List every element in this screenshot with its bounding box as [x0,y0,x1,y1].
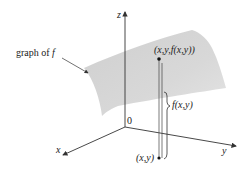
surface-graph-of-f [84,30,226,116]
graph-label-arrow [62,58,88,73]
y-axis-label: y [221,145,227,156]
surface-label-prefix: graph of [16,47,52,58]
surface-label: graph of f [16,47,56,58]
plane-point-label: (x,y) [136,152,155,164]
x-axis [63,127,125,155]
origin-label: 0 [127,115,132,126]
surface-label-func: f [52,47,56,58]
z-axis-label: z [116,9,121,20]
function-graph-diagram: z x y 0 graph of f (x,y,f(x,y)) (x,y) f(… [0,0,245,174]
x-axis-label: x [55,144,61,155]
surface-point-dot [157,57,161,61]
plane-point-dot [157,156,160,159]
surface-point-label: (x,y,f(x,y)) [154,44,195,56]
y-axis [125,127,236,146]
height-label: f(x,y) [172,99,193,111]
height-brace [164,92,170,159]
